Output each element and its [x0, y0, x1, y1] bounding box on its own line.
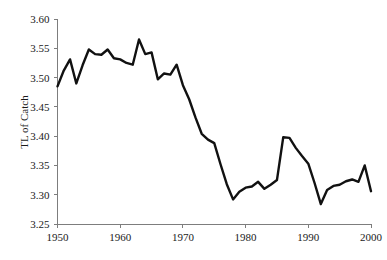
y-tick-label: 3.60	[30, 13, 50, 25]
y-tick-label: 3.30	[30, 189, 50, 201]
y-tick-label: 3.50	[30, 72, 50, 84]
y-tick-label: 3.35	[30, 159, 50, 171]
plot-background	[0, 0, 387, 260]
y-tick-label: 3.25	[30, 218, 50, 230]
x-tick-label: 1960	[109, 231, 132, 243]
y-axis-title: TL of Catch	[18, 95, 30, 149]
y-tick-label: 3.40	[30, 130, 50, 142]
x-tick-label: 1990	[297, 231, 320, 243]
x-tick-label: 1970	[172, 231, 195, 243]
line-chart: 3.253.303.353.403.453.503.553.60 1950196…	[0, 0, 387, 260]
x-tick-label: 2000	[360, 231, 383, 243]
chart-figure: 3.253.303.353.403.453.503.553.60 1950196…	[0, 0, 387, 260]
x-tick-label: 1980	[235, 231, 258, 243]
y-axis-title-group: TL of Catch	[18, 95, 30, 149]
y-tick-label: 3.55	[30, 42, 50, 54]
x-tick-label: 1950	[47, 231, 70, 243]
y-tick-label: 3.45	[30, 101, 50, 113]
